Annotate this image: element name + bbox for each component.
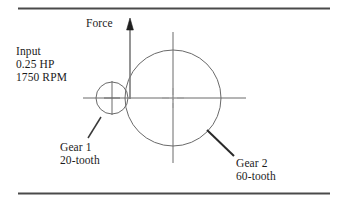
gear-train-diagram: [0, 0, 343, 203]
gear1-leader-line: [88, 117, 101, 138]
force-arrow-head: [127, 18, 134, 30]
figure-canvas: Input0.25 HP1750 RPM Force Gear 120-toot…: [0, 0, 343, 203]
input-spec-line-3: 1750 RPM: [16, 71, 67, 84]
gear1-label: Gear 120-tooth: [60, 141, 100, 167]
force-label: Force: [86, 17, 113, 30]
input-spec-line-2: 0.25 HP: [16, 58, 67, 71]
input-spec-line-1: Input: [16, 45, 67, 58]
gear2-label-line-2: 60-tooth: [236, 170, 276, 183]
gear1-center-mark: [104, 81, 120, 115]
input-spec-label: Input0.25 HP1750 RPM: [16, 45, 67, 85]
gear1-label-line-1: Gear 1: [60, 141, 100, 154]
gear2-label-line-1: Gear 2: [236, 157, 276, 170]
gear2-center-mark: [162, 88, 184, 108]
gear2-label: Gear 260-tooth: [236, 157, 276, 183]
gear2-leader-line: [207, 130, 234, 156]
gear1-label-line-2: 20-tooth: [60, 154, 100, 167]
